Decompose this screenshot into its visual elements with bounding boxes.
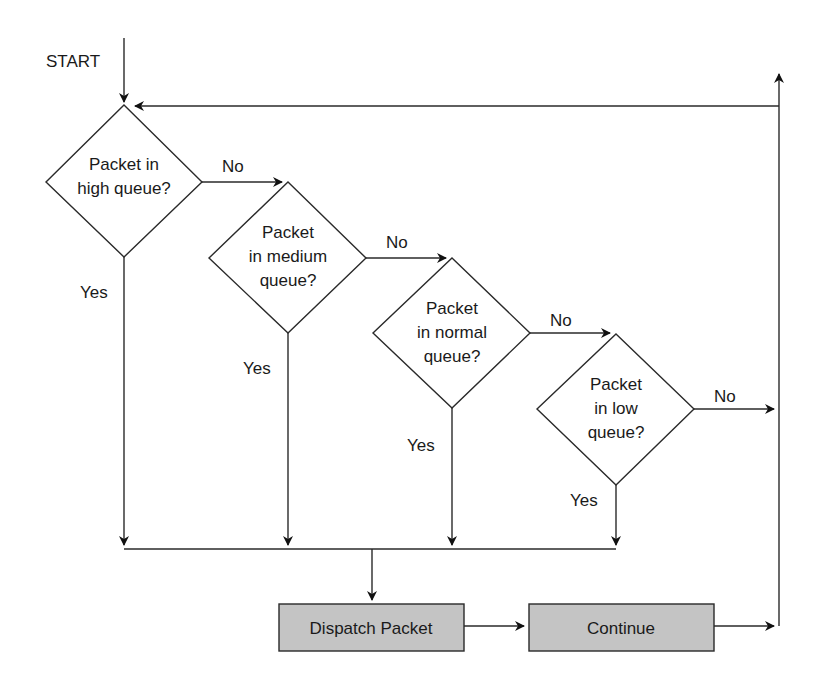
svg-text:queue?: queue? [588, 423, 645, 442]
flowchart: START Packet in high queue? No Yes Packe… [0, 0, 824, 674]
yes-label-medium: Yes [243, 359, 271, 378]
svg-text:queue?: queue? [424, 347, 481, 366]
svg-text:high queue?: high queue? [77, 179, 171, 198]
decision-high-queue: Packet in high queue? [46, 105, 202, 257]
yes-label-high: Yes [80, 283, 108, 302]
decision-normal-queue: Packet in normal queue? [373, 258, 530, 408]
no-label-high: No [222, 157, 244, 176]
svg-text:Dispatch Packet: Dispatch Packet [310, 619, 433, 638]
svg-text:Packet: Packet [590, 375, 642, 394]
svg-text:in medium: in medium [249, 247, 327, 266]
process-continue: Continue [529, 604, 714, 651]
start-label: START [46, 52, 100, 71]
no-label-low: No [714, 387, 736, 406]
decision-medium-queue: Packet in medium queue? [209, 182, 366, 333]
svg-text:in normal: in normal [417, 323, 487, 342]
svg-text:in low: in low [594, 399, 638, 418]
svg-text:Packet in: Packet in [89, 155, 159, 174]
svg-text:Packet: Packet [426, 299, 478, 318]
no-label-normal: No [550, 311, 572, 330]
yes-label-low: Yes [570, 491, 598, 510]
process-dispatch-packet: Dispatch Packet [279, 604, 464, 651]
svg-text:queue?: queue? [260, 271, 317, 290]
no-label-medium: No [386, 233, 408, 252]
yes-label-normal: Yes [407, 436, 435, 455]
svg-text:Packet: Packet [262, 223, 314, 242]
svg-text:Continue: Continue [587, 619, 655, 638]
decision-low-queue: Packet in low queue? [537, 334, 694, 485]
